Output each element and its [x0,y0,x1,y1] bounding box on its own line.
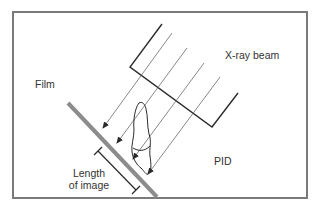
beam-arrow-1 [103,33,172,128]
film-label: Film [35,78,55,90]
xray-beam-lines [103,33,220,174]
length-of-image-line-1: Length [64,167,114,179]
length-of-image-line-2: of image [64,179,114,191]
pid-label: PID [214,155,232,167]
xray-beam-label: X-ray beam [225,49,279,61]
length-of-image-label: Length of image [64,167,114,191]
beam-arrow-2 [117,48,187,143]
xray-projection-diagram [0,0,322,217]
diagram-frame [13,12,307,198]
